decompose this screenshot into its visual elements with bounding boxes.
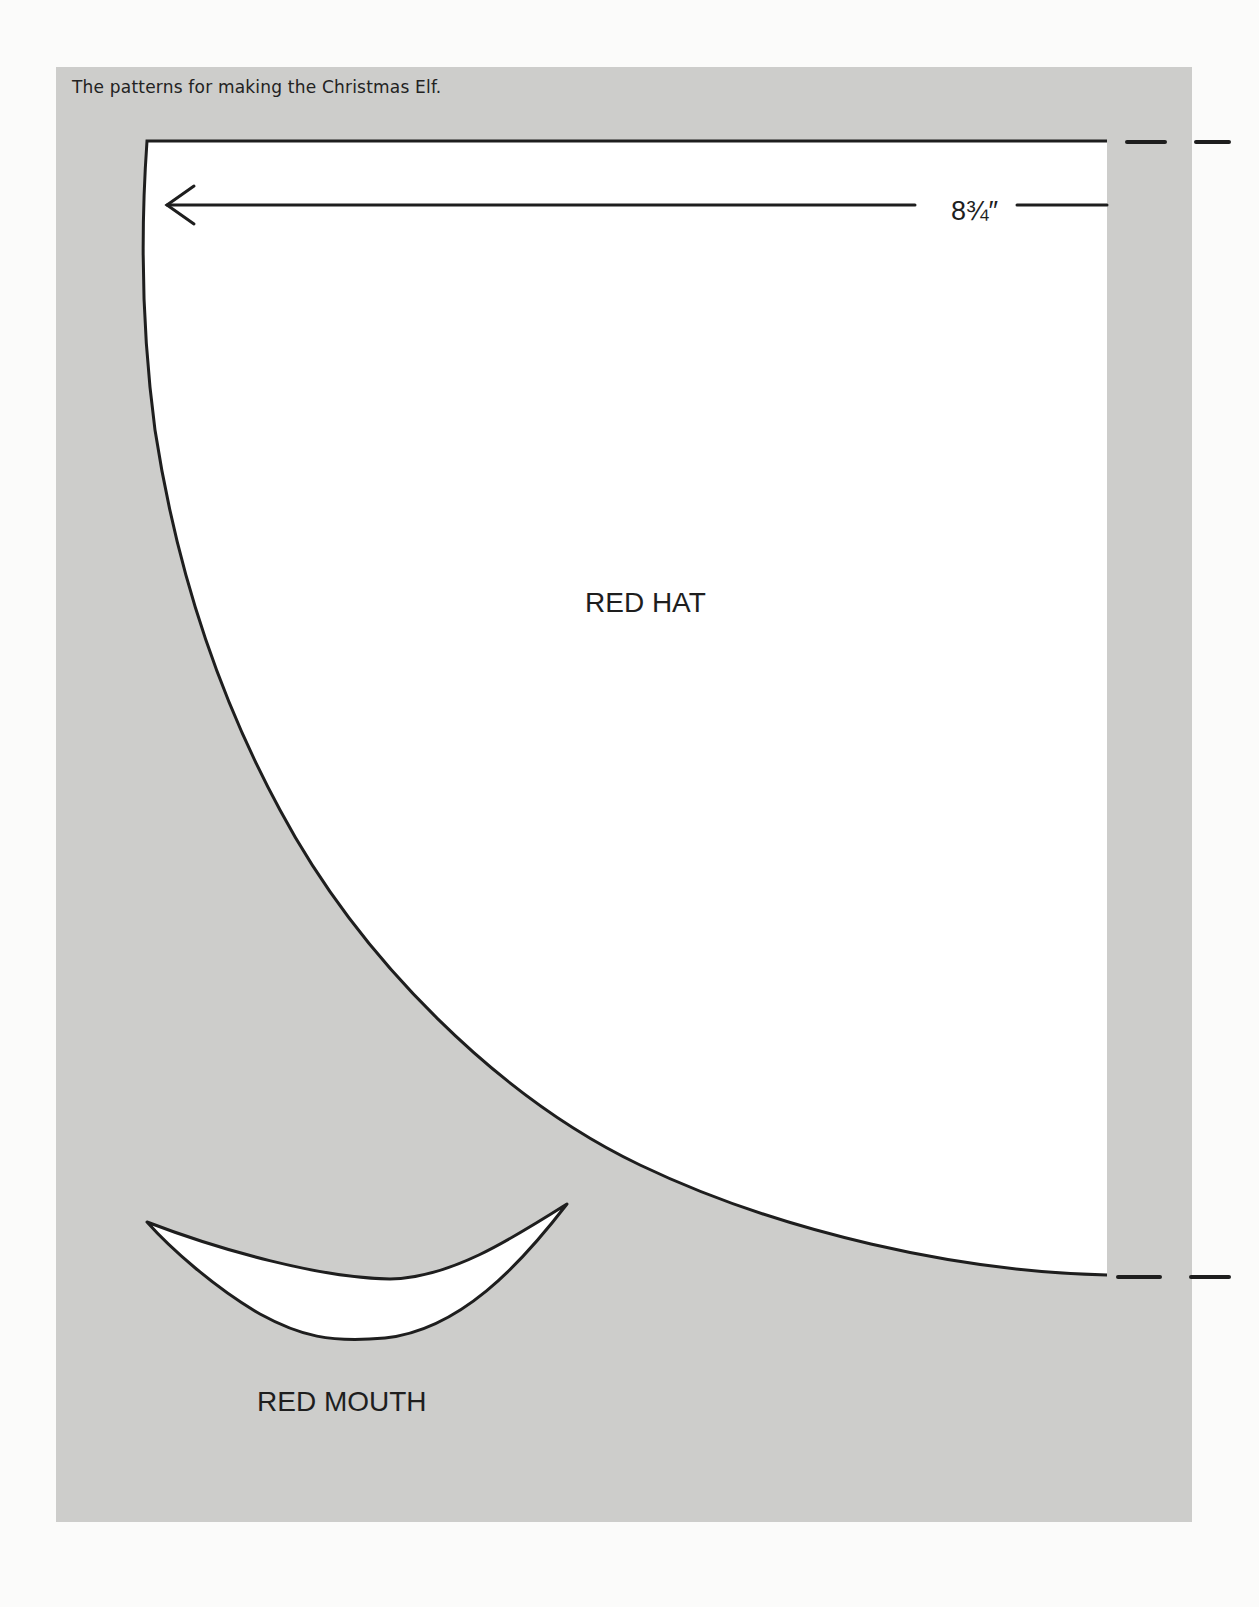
mouth-label: RED MOUTH xyxy=(257,1386,427,1418)
hat-pattern-shape xyxy=(143,141,1107,1275)
pattern-drawing xyxy=(0,0,1259,1607)
hat-label: RED HAT xyxy=(585,587,706,619)
mouth-pattern-shape xyxy=(147,1204,567,1340)
hat-dimension-label: 8¾″ xyxy=(945,196,1004,227)
fold-line-dashes xyxy=(1118,142,1229,1277)
